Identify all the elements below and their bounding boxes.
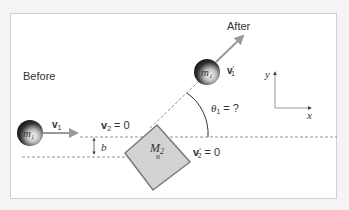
v1-prime-arrow bbox=[216, 36, 243, 62]
v1-prime-label: v′1 bbox=[227, 64, 235, 77]
v2-initial-label: v2 = 0 bbox=[101, 119, 130, 132]
coordinate-axes bbox=[275, 72, 311, 108]
theta-arc bbox=[187, 93, 208, 137]
b-label: b bbox=[101, 141, 107, 153]
y-axis-label: y bbox=[264, 68, 270, 80]
before-label: Before bbox=[23, 70, 55, 82]
v2-prime-label: v′2 = 0 bbox=[193, 146, 220, 159]
after-label: After bbox=[227, 20, 251, 32]
theta-label: θ1 = ? bbox=[211, 102, 239, 115]
x-axis-label: x bbox=[306, 109, 312, 121]
v1-label: v1 bbox=[52, 119, 62, 131]
outgoing-path-line bbox=[150, 82, 198, 128]
collision-diagram: M2 m1 v1 v2 = 0 b m1 v′1 After Before θ1… bbox=[0, 0, 349, 210]
